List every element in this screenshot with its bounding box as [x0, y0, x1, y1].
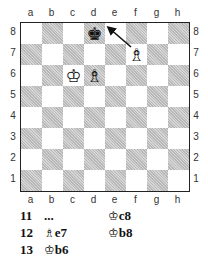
move-number-13: 13: [20, 242, 33, 258]
move-11-white: ...: [44, 208, 54, 224]
rank-label-6: 6: [190, 68, 202, 79]
chess-board: ♚♗♔♗: [20, 22, 190, 192]
file-label-a: a: [20, 194, 41, 205]
rank-label-2: 2: [7, 152, 19, 163]
file-label-f: f: [125, 7, 146, 18]
move-number-11: 11: [20, 208, 32, 224]
rank-label-4: 4: [7, 110, 19, 121]
file-label-b: b: [41, 7, 62, 18]
rank-label-1: 1: [190, 173, 202, 184]
rank-label-7: 7: [190, 47, 202, 58]
file-label-b: b: [41, 194, 62, 205]
rank-label-6: 6: [7, 68, 19, 79]
move-12-black: ♔b8: [108, 225, 133, 241]
rank-label-8: 8: [7, 26, 19, 37]
rank-label-5: 5: [190, 89, 202, 100]
move-number-12: 12: [20, 225, 33, 241]
rank-label-7: 7: [7, 47, 19, 58]
file-label-d: d: [83, 7, 104, 18]
file-label-h: h: [167, 194, 188, 205]
file-label-e: e: [104, 7, 125, 18]
king-icon: ♔: [108, 226, 119, 240]
move-13-white: ♔b6: [44, 242, 69, 258]
bishop-icon: ♗: [44, 226, 55, 240]
king-icon: ♔: [44, 243, 55, 257]
file-label-f: f: [125, 194, 146, 205]
move-arrow-icon: [21, 23, 189, 191]
rank-label-2: 2: [190, 152, 202, 163]
move-12-white: ♗e7: [44, 225, 67, 241]
king-icon: ♔: [108, 209, 119, 223]
rank-label-3: 3: [190, 131, 202, 142]
rank-label-8: 8: [190, 26, 202, 37]
file-label-c: c: [62, 7, 83, 18]
rank-label-5: 5: [7, 89, 19, 100]
rank-label-3: 3: [7, 131, 19, 142]
file-label-a: a: [20, 7, 41, 18]
file-label-e: e: [104, 194, 125, 205]
rank-label-1: 1: [7, 173, 19, 184]
file-label-h: h: [167, 7, 188, 18]
file-label-d: d: [83, 194, 104, 205]
file-label-g: g: [146, 7, 167, 18]
file-label-g: g: [146, 194, 167, 205]
file-label-c: c: [62, 194, 83, 205]
move-11-black: ♔c8: [108, 208, 131, 224]
rank-label-4: 4: [190, 110, 202, 121]
